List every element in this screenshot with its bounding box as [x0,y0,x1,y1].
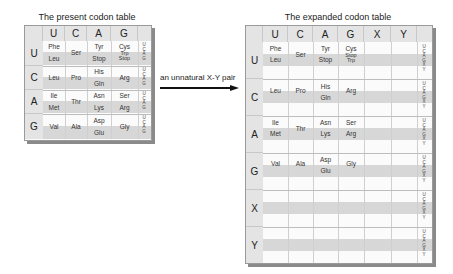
amino-acid: Arg [338,130,364,137]
amino-acid: Arg [111,74,138,81]
present-codon-table: U C A G U C A G Phe Leu Ser Tyr Stop Cys… [24,25,152,141]
left-row-header-g: G [25,114,43,139]
amino-acid: Ile [43,92,65,99]
amino-acid: Gln [87,80,111,87]
arrow-head-icon [230,85,239,91]
left-col-header-a: A [87,26,111,41]
left-col-header-c: C [65,26,87,41]
right-row-header-c: C [246,79,263,116]
amino-acid: Asp [313,156,338,163]
third-letter-column: UCAG [139,43,149,61]
amino-acid: Asp [87,117,111,124]
right-col-header-g: G [338,26,364,42]
left-col-header-g: G [111,26,138,41]
amino-acid: Stop [111,56,138,61]
amino-acid: Trp [338,58,364,63]
amino-acid: Ser [338,119,364,126]
amino-acid: Lys [87,104,111,111]
amino-acid: Pro [288,87,313,94]
third-letter-column: UCAGXY [419,156,429,184]
left-col-header-u: U [43,26,65,41]
amino-acid: His [87,68,111,75]
right-row-header-g: G [246,153,263,190]
amino-acid: Arg [111,104,138,111]
amino-acid: Cys [111,43,138,50]
third-letter-column: UCAGXY [419,45,429,73]
left-row-header-u: U [25,41,43,66]
third-letter-column: UCAG [139,116,149,134]
third-letter-column: UCAGXY [419,230,429,258]
right-col-header-a: A [313,26,338,42]
amino-acid: Ala [288,160,313,167]
amino-acid: Met [263,130,288,137]
amino-acid: Ser [288,51,313,58]
third-letter-column: UCAG [139,68,149,86]
amino-acid: Leu [43,55,65,62]
amino-acid: Asn [87,92,111,99]
amino-acid: Pro [65,74,87,81]
amino-acid: Ile [263,119,288,126]
third-letter-column: UCAGXY [419,82,429,110]
left-row-header-c: C [25,66,43,90]
amino-acid: Met [43,104,65,111]
amino-acid: Leu [43,74,65,81]
amino-acid: His [313,83,338,90]
amino-acid: Phe [43,43,65,50]
right-col-header-c: C [288,26,313,42]
arrow-label: an unnatural X-Y pair [160,73,235,82]
amino-acid: Cys [338,45,364,52]
left-row-header-a: A [25,90,43,114]
arrow-line [160,87,231,89]
amino-acid: Asn [313,119,338,126]
amino-acid: Gly [111,123,138,130]
amino-acid: Gln [313,94,338,101]
amino-acid: Val [43,123,65,130]
amino-acid: Leu [263,87,288,94]
expanded-codon-table: U C A G X Y U C A G X Y Phe Leu Ser Tyr … [245,25,433,264]
amino-acid: Glu [313,167,338,174]
right-row-header-x: X [246,190,263,227]
right-col-header-x: X [364,26,391,42]
amino-acid: Phe [263,45,288,52]
amino-acid: Arg [338,87,364,94]
amino-acid: Thr [65,98,87,105]
right-row-header-y: Y [246,227,263,263]
right-row-header-u: U [246,42,263,79]
third-letter-column: UCAGXY [419,193,429,221]
amino-acid: Stop [87,55,111,62]
amino-acid: Lys [313,130,338,137]
amino-acid: Val [263,160,288,167]
amino-acid: Tyr [313,45,338,52]
amino-acid: Stop [313,56,338,63]
right-col-header-y: Y [391,26,417,42]
left-table-title: The present codon table [24,12,150,22]
amino-acid: Gly [338,160,364,167]
amino-acid: Leu [263,56,288,63]
right-row-header-a: A [246,116,263,153]
amino-acid: Ala [65,123,87,130]
amino-acid: Tyr [87,43,111,50]
right-table-title: The expanded codon table [245,12,431,22]
third-letter-column: UCAG [139,92,149,110]
right-col-header-u: U [263,26,288,42]
third-letter-column: UCAGXY [419,119,429,147]
amino-acid: Glu [87,129,111,136]
amino-acid: Thr [288,125,313,132]
amino-acid: Ser [111,92,138,99]
amino-acid: Ser [65,49,87,56]
